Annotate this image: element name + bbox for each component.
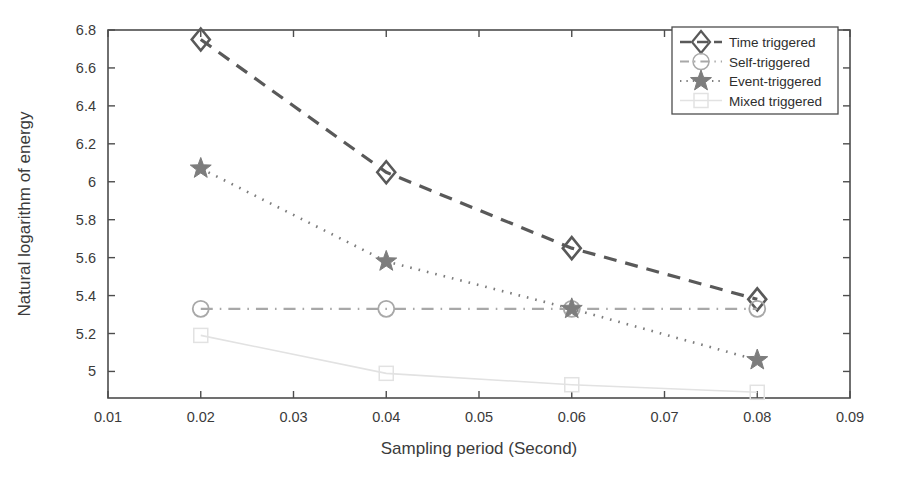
series-event-triggered	[190, 157, 767, 368]
series-line	[201, 335, 758, 392]
legend-label: Self-triggered	[729, 55, 810, 70]
y-tick-label: 5	[88, 363, 96, 379]
y-tick-label: 5.4	[76, 288, 96, 304]
x-tick-label: 0.09	[836, 409, 864, 425]
series-line	[201, 168, 758, 360]
x-tick-label: 0.02	[187, 409, 215, 425]
series-mixed-triggered	[194, 328, 765, 399]
data-point-star	[747, 349, 768, 369]
x-tick-label: 0.03	[279, 409, 307, 425]
y-tick-label: 5.8	[76, 212, 96, 228]
y-tick-label: 5.6	[76, 250, 96, 266]
x-tick-label: 0.05	[465, 409, 493, 425]
x-tick-label: 0.06	[558, 409, 586, 425]
chart-figure: 0.010.020.030.040.050.060.070.080.0955.2…	[0, 0, 907, 477]
y-tick-label: 6	[88, 174, 96, 190]
data-point-star	[376, 250, 397, 270]
x-axis-label: Sampling period (Second)	[381, 439, 578, 458]
star-marker	[561, 298, 582, 318]
legend-label: Mixed triggered	[729, 94, 822, 109]
star-marker	[747, 349, 768, 369]
y-tick-label: 6.4	[76, 98, 96, 114]
legend-label: Event-triggered	[729, 74, 821, 89]
x-tick-label: 0.08	[743, 409, 771, 425]
y-tick-label: 6.2	[76, 136, 96, 152]
star-marker	[190, 157, 211, 177]
y-tick-label: 5.2	[76, 326, 96, 342]
data-point-star	[561, 298, 582, 318]
x-tick-label: 0.07	[650, 409, 678, 425]
x-tick-label: 0.04	[372, 409, 400, 425]
legend-label: Time triggered	[729, 35, 816, 50]
star-marker	[376, 250, 397, 270]
series-self-triggered	[193, 301, 766, 317]
y-axis-label: Natural logarithm of energy	[15, 111, 34, 317]
y-tick-label: 6.6	[76, 60, 96, 76]
chart-canvas: 0.010.020.030.040.050.060.070.080.0955.2…	[0, 0, 907, 477]
x-tick-label: 0.01	[94, 409, 122, 425]
data-point-star	[190, 157, 211, 177]
y-tick-label: 6.8	[76, 22, 96, 38]
